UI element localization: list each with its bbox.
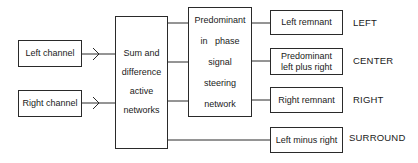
output-label-surround: SURROUND: [349, 132, 406, 143]
output-label-right: RIGHT: [353, 94, 384, 105]
output-label-left: LEFT: [353, 17, 377, 28]
left-remnant-label: Left remnant: [281, 17, 332, 28]
sum-diff-line-1: Sum and: [123, 48, 159, 58]
predominant-line-1: Predominant: [281, 51, 332, 62]
sum-diff-line-3: active: [130, 86, 154, 96]
steering-line-3: signal: [208, 57, 232, 67]
right-channel-box: Right channel: [18, 90, 82, 117]
left-remnant-box: Left remnant: [270, 10, 343, 35]
sum-diff-line-2: difference: [122, 67, 161, 77]
predominant-left-plus-right-box: Predominant left plus right: [270, 48, 343, 75]
left-channel-box: Left channel: [18, 40, 82, 67]
right-remnant-label: Right remnant: [278, 95, 335, 106]
sum-diff-line-4: networks: [123, 105, 159, 115]
output-label-center: CENTER: [353, 55, 393, 66]
right-channel-label: Right channel: [22, 98, 77, 109]
steering-line-2: in phase: [200, 36, 239, 46]
steering-network-box: Predominant in phase signal steering net…: [188, 7, 252, 117]
right-remnant-box: Right remnant: [270, 87, 343, 113]
left-minus-right-label: Left minus right: [276, 135, 338, 146]
left-minus-right-box: Left minus right: [270, 127, 343, 153]
steering-line-5: network: [204, 99, 236, 109]
sum-difference-network-box: Sum and difference active networks: [115, 16, 168, 149]
steering-line-4: steering: [204, 78, 236, 88]
left-channel-label: Left channel: [25, 48, 74, 59]
predominant-line-2: left plus right: [281, 62, 332, 73]
steering-line-1: Predominant: [194, 15, 245, 25]
